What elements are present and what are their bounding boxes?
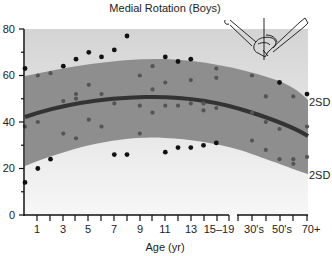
- data-point: [87, 118, 91, 122]
- x-tick-label: 1: [34, 223, 40, 235]
- chart-title: Medial Rotation (Boys): [109, 2, 220, 14]
- data-point: [74, 92, 78, 96]
- data-point: [264, 94, 268, 98]
- data-point: [112, 101, 116, 105]
- data-point: [250, 111, 254, 115]
- data-point: [264, 148, 268, 152]
- sd-lower-label: 2SD: [309, 169, 330, 181]
- data-point: [112, 48, 117, 53]
- data-point: [176, 59, 181, 64]
- data-point: [201, 101, 205, 105]
- data-point: [188, 57, 193, 62]
- data-point: [277, 127, 281, 131]
- data-point: [74, 136, 78, 140]
- data-point: [214, 76, 218, 80]
- data-point: [291, 162, 295, 166]
- y-tick-label-60: 60: [3, 69, 15, 81]
- data-point: [189, 101, 193, 105]
- y-tick-label-40: 40: [3, 116, 15, 128]
- data-point: [291, 94, 295, 98]
- data-point: [36, 120, 40, 124]
- x-tick-label: 9: [137, 223, 143, 235]
- data-point: [163, 80, 167, 84]
- x-tick-label: 50's: [272, 223, 292, 235]
- x-tick-label: 3: [60, 223, 66, 235]
- data-point: [150, 111, 154, 115]
- x-ticks: [37, 215, 307, 221]
- data-point: [163, 104, 167, 108]
- data-point: [277, 157, 281, 161]
- y-tick-label-20: 20: [3, 162, 15, 174]
- data-point: [150, 87, 154, 91]
- medial-rotation-chart: Medial Rotation (Boys) 0 20 40 60: [0, 0, 332, 256]
- data-point: [138, 73, 142, 77]
- data-point: [74, 97, 78, 101]
- data-point: [99, 125, 103, 129]
- data-point: [48, 157, 53, 162]
- x-tick-label: 30's: [244, 223, 264, 235]
- data-point: [250, 73, 254, 77]
- data-point: [264, 120, 268, 124]
- data-point: [61, 132, 65, 136]
- data-point: [305, 155, 309, 159]
- data-point: [305, 125, 309, 129]
- data-point: [48, 71, 52, 75]
- data-point: [277, 80, 282, 85]
- y-tick-label-80: 80: [3, 23, 15, 35]
- data-point: [99, 55, 104, 60]
- data-point: [189, 78, 193, 82]
- x-axis-label: Age (yr): [145, 241, 184, 253]
- x-tick-label: 7: [111, 223, 117, 235]
- data-point: [138, 104, 142, 108]
- data-point: [250, 139, 254, 143]
- data-point: [163, 55, 168, 60]
- data-point: [214, 106, 218, 110]
- chart-svg: Medial Rotation (Boys) 0 20 40 60: [0, 0, 332, 256]
- data-point: [99, 92, 103, 96]
- x-tick-label: 70+: [302, 223, 321, 235]
- x-tick-label: 15–19: [204, 223, 235, 235]
- data-point: [214, 141, 219, 146]
- data-point: [176, 104, 180, 108]
- data-point: [125, 34, 130, 39]
- data-point: [61, 64, 66, 69]
- data-point: [86, 50, 91, 55]
- sd-upper-label: 2SD: [309, 96, 330, 108]
- y-tick-label-0: 0: [9, 209, 15, 221]
- data-point: [163, 150, 168, 155]
- data-point: [125, 152, 130, 157]
- x-tick-label: 5: [85, 223, 91, 235]
- data-point: [201, 108, 205, 112]
- data-point: [36, 73, 40, 77]
- data-point: [291, 157, 295, 161]
- data-point: [201, 143, 206, 148]
- data-point: [87, 83, 91, 87]
- data-point: [61, 99, 65, 103]
- data-point: [150, 64, 154, 68]
- data-point: [188, 145, 193, 150]
- x-tick-label: 11: [159, 223, 170, 235]
- data-point: [214, 66, 218, 70]
- data-point: [35, 166, 40, 171]
- x-tick-label: 13: [185, 223, 197, 235]
- data-point: [138, 132, 142, 136]
- data-point: [74, 57, 79, 62]
- data-point: [112, 152, 117, 157]
- data-point: [176, 145, 181, 150]
